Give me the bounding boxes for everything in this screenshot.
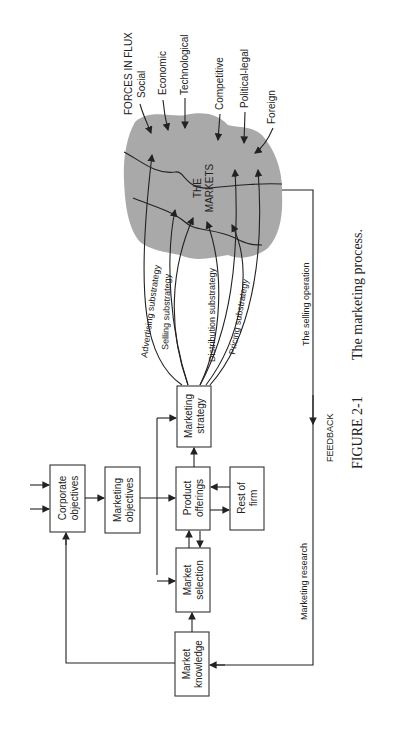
box-marketing-objectives: Marketing objectives	[105, 467, 140, 533]
box-product-offerings: Product offerings	[176, 467, 210, 530]
box-rest-of-firm: Rest of firm	[230, 467, 264, 530]
figure-number: FIGURE 2-1	[350, 396, 365, 469]
svg-text:objectives: objectives	[124, 478, 135, 522]
box-corporate-objectives: Corporate objectives	[50, 465, 85, 532]
box-market-knowledge: Market knowledge	[175, 632, 209, 696]
box-marketing-strategy: Marketing strategy	[177, 386, 211, 447]
svg-text:Product: Product	[182, 481, 193, 516]
svg-text:knowledge: knowledge	[193, 640, 204, 688]
svg-text:Corporate: Corporate	[57, 475, 68, 520]
markets-label-2: MARKETS	[204, 164, 215, 213]
svg-text:objectives: objectives	[69, 476, 80, 520]
selling-substrategy-label: Selling substrategy	[160, 273, 173, 350]
svg-text:strategy: strategy	[195, 398, 206, 434]
distribution-substrategy-label: Distribution substrategy	[207, 267, 217, 362]
force-technological: Technological	[179, 34, 190, 95]
marketing-research-label: Marketing research	[299, 543, 309, 620]
box-market-selection: Market selection	[176, 548, 210, 612]
marketing-process-diagram: THE MARKETS FORCES IN FLUX Social Econom…	[0, 0, 394, 730]
figure-title: The marketing process.	[350, 229, 365, 360]
svg-text:selection: selection	[194, 560, 205, 599]
force-competitive: Competitive	[214, 57, 225, 110]
markets-label: THE	[192, 178, 203, 198]
svg-text:Market: Market	[181, 648, 192, 679]
svg-text:Marketing: Marketing	[183, 394, 194, 438]
svg-text:offerings: offerings	[194, 479, 205, 517]
svg-text:Marketing: Marketing	[112, 478, 123, 522]
selling-operation-label: The selling operation	[301, 262, 311, 346]
force-economic: Economic	[157, 51, 168, 95]
forces-heading: FORCES IN FLUX	[123, 32, 134, 115]
force-foreign: Foreign	[266, 90, 277, 124]
svg-text:Rest of: Rest of	[236, 482, 247, 514]
force-political-legal: Political-legal	[239, 49, 250, 108]
svg-text:Market: Market	[182, 564, 193, 595]
feedback-label: FEEDBACK	[325, 413, 335, 462]
force-social: Social	[136, 71, 147, 98]
advertising-substrategy-label: Advertising substrategy	[139, 264, 162, 359]
svg-text:firm: firm	[248, 490, 259, 507]
